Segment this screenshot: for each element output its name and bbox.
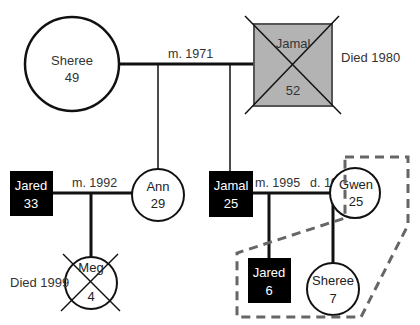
death-note-meg: Died 1999	[10, 275, 69, 290]
marriage-label-1992: m. 1992	[72, 176, 117, 190]
person-age: 7	[329, 291, 336, 306]
person-name: Meg	[78, 260, 103, 275]
female-symbol	[307, 263, 359, 315]
person-age: 52	[286, 83, 300, 98]
person-age: 25	[224, 196, 238, 211]
person-name: Sheree	[312, 273, 354, 288]
person-name: Jared	[15, 178, 48, 193]
person-name: Jamal	[214, 178, 249, 193]
marriage-label-1995: m. 1995	[255, 176, 300, 190]
female-symbol	[132, 169, 184, 221]
person-jared-gen3[interactable]: Jared 6	[248, 258, 291, 303]
person-name: Jamal	[276, 36, 311, 51]
person-name: Ann	[146, 179, 169, 194]
person-age: 29	[151, 196, 165, 211]
person-age: 6	[265, 283, 272, 298]
person-age: 49	[65, 70, 79, 85]
person-ann-gen2[interactable]: Ann 29	[132, 169, 184, 221]
person-sheree-gen3[interactable]: Sheree 7	[307, 263, 359, 315]
person-age: 4	[87, 289, 94, 304]
person-gwen-gen2[interactable]: Gwen 25	[330, 168, 380, 218]
person-meg-gen3[interactable]: Meg 4	[61, 254, 120, 311]
person-jamal-gen1[interactable]: Jamal 52	[245, 16, 341, 114]
person-jared-gen2[interactable]: Jared 33	[10, 171, 53, 216]
female-symbol	[330, 168, 380, 218]
person-age: 33	[24, 196, 38, 211]
person-sheree-gen1[interactable]: Sheree 49	[25, 17, 119, 111]
person-name: Jared	[253, 265, 286, 280]
genogram: m. 1971 Sheree 49 Jamal 52 Died 1980 m. …	[0, 0, 420, 325]
death-note-jamal: Died 1980	[341, 50, 400, 65]
person-age: 25	[349, 194, 363, 209]
person-jamal-gen2[interactable]: Jamal 25	[209, 171, 253, 217]
person-name: Sheree	[51, 53, 93, 68]
marriage-label-1971: m. 1971	[168, 47, 213, 61]
